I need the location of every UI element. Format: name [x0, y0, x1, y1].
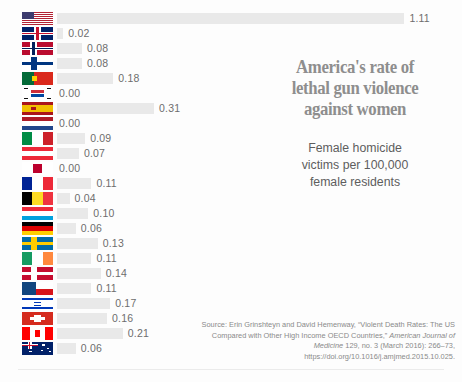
bar	[57, 283, 91, 294]
bar	[57, 193, 70, 204]
bar	[57, 148, 79, 159]
bar-and-value: 0.17	[57, 298, 136, 309]
bar	[57, 103, 154, 114]
bar	[57, 178, 91, 189]
bar-and-value: 0.08	[57, 58, 108, 69]
flag-icon-united-states	[22, 12, 53, 25]
bar	[57, 298, 110, 309]
flag-icon-italy	[22, 132, 53, 145]
bar-value-label: 0.18	[118, 73, 139, 84]
bar-and-value: 0.00	[57, 88, 80, 99]
chart-subtitle-line-3: female residents	[255, 174, 455, 191]
bar-and-value: 0.31	[57, 103, 180, 114]
bar-row: 0.04	[0, 191, 462, 206]
bar	[57, 28, 63, 39]
flag-icon-belgium	[22, 192, 53, 205]
bottom-divider	[18, 369, 444, 370]
flag-icon-finland	[22, 57, 53, 70]
bar-value-label: 0.16	[112, 313, 133, 324]
source-citation: Source: Erin Grinshteyn and David Hemenw…	[193, 320, 455, 362]
bar-and-value: 0.18	[57, 73, 140, 84]
bar-value-label: 0.13	[103, 238, 124, 249]
bar-value-label: 0.08	[87, 43, 108, 54]
bar-value-label: 0.06	[81, 343, 102, 354]
bar-and-value: 0.21	[57, 328, 149, 339]
bar	[57, 43, 82, 54]
bar-value-label: 0.21	[128, 328, 149, 339]
bar-row: 0.13	[0, 236, 462, 251]
bar	[57, 328, 123, 339]
flag-icon-france	[22, 177, 53, 190]
bar-row: 0.02	[0, 26, 462, 41]
bar-and-value: 0.08	[57, 43, 108, 54]
bar	[57, 313, 107, 324]
page-title-line-1: America's rate of	[269, 56, 441, 77]
bar	[57, 343, 76, 354]
flag-icon-germany	[22, 222, 53, 235]
bar-row: 0.14	[0, 266, 462, 281]
flag-icon-ireland	[22, 252, 53, 265]
bar-value-label: 0.14	[106, 268, 127, 279]
bar-and-value: 1.11	[57, 13, 430, 24]
bar-and-value: 0.00	[57, 118, 80, 129]
bar-value-label: 0.11	[96, 178, 116, 189]
bar	[57, 58, 82, 69]
bar-and-value: 0.09	[57, 133, 111, 144]
flag-icon-south-korea	[22, 87, 53, 100]
bar-value-label: 0.00	[59, 118, 80, 129]
flag-icon-japan	[22, 162, 53, 175]
flag-icon-netherlands	[22, 117, 53, 130]
bar-row: 0.17	[0, 296, 462, 311]
bar-and-value: 0.00	[57, 163, 80, 174]
bar-and-value: 0.06	[57, 343, 102, 354]
bar-value-label: 0.08	[87, 58, 108, 69]
bar-value-label: 0.07	[84, 148, 105, 159]
bar-and-value: 0.06	[57, 223, 102, 234]
page-title-line-3: against women	[269, 98, 441, 119]
chart-subtitle-line-2: victims per 100,000	[255, 157, 455, 174]
bar-row: 0.10	[0, 206, 462, 221]
flag-icon-united-kingdom	[22, 27, 53, 40]
bar	[57, 223, 76, 234]
flag-icon-australia	[22, 342, 53, 355]
chart-subtitle-line-1: Female homicide	[255, 140, 455, 157]
flag-icon-austria	[22, 147, 53, 160]
bar-and-value: 0.07	[57, 148, 105, 159]
flag-icon-canada	[22, 327, 53, 340]
bar-value-label: 0.17	[115, 298, 136, 309]
bar-value-label: 0.02	[68, 28, 89, 39]
bar-value-label: 0.04	[75, 193, 96, 204]
bar-value-label: 0.10	[93, 208, 114, 219]
bar	[57, 133, 85, 144]
page-title-line-2: lethal gun violence	[269, 77, 441, 98]
bar-and-value: 0.11	[57, 253, 117, 264]
infographic-canvas: 1.110.020.080.080.180.000.310.000.090.07…	[0, 0, 462, 382]
flag-icon-spain	[22, 102, 53, 115]
bar-value-label: 0.00	[59, 163, 80, 174]
bar-and-value: 0.16	[57, 313, 133, 324]
bar	[57, 253, 91, 264]
bar	[57, 13, 404, 24]
bar-and-value: 0.11	[57, 178, 117, 189]
flag-icon-denmark	[22, 267, 53, 280]
bar-value-label: 0.09	[90, 133, 111, 144]
bar-row: 0.11	[0, 281, 462, 296]
bar-value-label: 0.06	[81, 223, 102, 234]
bar-and-value: 0.13	[57, 238, 124, 249]
flag-icon-portugal	[22, 72, 53, 85]
flag-icon-sweden	[22, 237, 53, 250]
bar-row: 0.06	[0, 221, 462, 236]
bar-row: 1.11	[0, 11, 462, 26]
bar-and-value: 0.11	[57, 283, 117, 294]
bar	[57, 73, 113, 84]
bar-row: 0.08	[0, 41, 462, 56]
page-title: America's rate oflethal gun violenceagai…	[269, 56, 441, 119]
flag-icon-norway	[22, 42, 53, 55]
bar-and-value: 0.10	[57, 208, 115, 219]
flag-icon-israel	[22, 297, 53, 310]
bar	[57, 208, 88, 219]
bar-and-value: 0.14	[57, 268, 127, 279]
flag-icon-czech-republic	[22, 282, 53, 295]
bar-value-label: 0.11	[96, 283, 116, 294]
bar-value-label: 0.11	[96, 253, 116, 264]
